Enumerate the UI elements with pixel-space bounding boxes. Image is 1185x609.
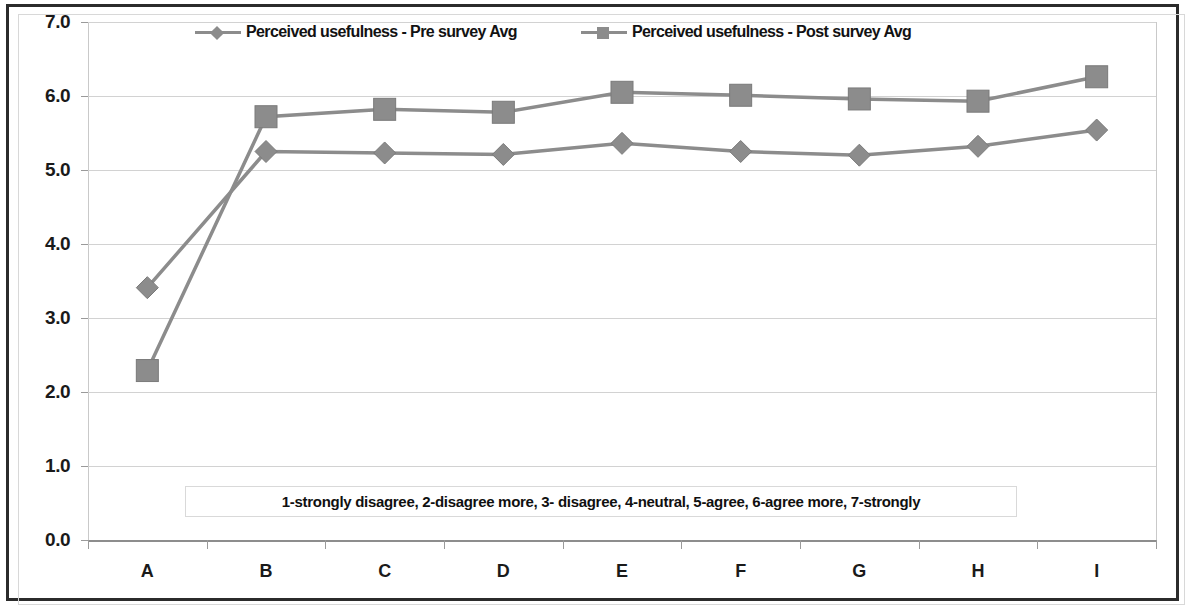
data-point-square [136,360,158,382]
x-tick-label: E [587,561,657,582]
series-layer [88,22,1156,540]
x-tick-label: D [468,561,538,582]
x-tick [1156,540,1157,549]
scale-annotation-box: 1-strongly disagree, 2-disagree more, 3-… [185,486,1017,517]
scale-annotation-text: 1-strongly disagree, 2-disagree more, 3-… [282,493,920,510]
y-tick [81,392,88,393]
x-tick [681,540,682,549]
data-point-diamond [730,141,752,163]
legend-item-pre: Perceived usefulness - Pre survey Avg [195,23,517,41]
x-tick [88,540,89,549]
legend-label: Perceived usefulness - Post survey Avg [632,23,911,41]
x-tick [563,540,564,549]
x-tick [800,540,801,549]
legend-line-sample [581,25,627,39]
y-tick-label: 1.0 [10,456,70,475]
plot-right-border [1156,22,1157,541]
data-point-square [848,88,870,110]
y-tick [81,170,88,171]
y-tick-label: 6.0 [10,86,70,105]
x-axis-line [88,540,1157,542]
data-point-diamond [611,132,633,154]
y-tick-label: 7.0 [10,12,70,31]
data-point-diamond [1086,119,1108,141]
y-tick [81,466,88,467]
legend-item-post: Perceived usefulness - Post survey Avg [581,23,911,41]
x-tick-label: B [231,561,301,582]
legend-diamond-icon [210,26,224,40]
y-tick [81,540,88,541]
y-tick [81,318,88,319]
y-tick-label: 4.0 [10,234,70,253]
data-point-square [1086,66,1108,88]
y-tick-label: 3.0 [10,308,70,327]
y-tick [81,244,88,245]
y-tick-label: 5.0 [10,160,70,179]
data-point-square [492,101,514,123]
x-tick [325,540,326,549]
legend-square-icon [597,27,609,39]
data-point-square [374,98,396,120]
y-tick-label: 0.0 [10,530,70,549]
x-tick [444,540,445,549]
x-tick-label: C [350,561,420,582]
series-line [147,77,1096,371]
data-point-square [611,81,633,103]
data-point-square [730,84,752,106]
data-point-diamond [967,135,989,157]
legend-label: Perceived usefulness - Pre survey Avg [246,23,517,41]
x-tick [207,540,208,549]
x-tick [1037,540,1038,549]
chart-legend: Perceived usefulness - Pre survey AvgPer… [195,23,911,41]
chart-page: 7.06.05.04.03.02.01.00.0 ABCDEFGHI Perce… [0,0,1185,609]
x-tick-label: G [824,561,894,582]
data-point-square [255,106,277,128]
y-tick [81,96,88,97]
data-point-diamond [492,143,514,165]
data-point-square [967,90,989,112]
plot-area [88,22,1156,540]
x-tick-label: A [112,561,182,582]
data-point-diamond [374,142,396,164]
y-tick-label: 2.0 [10,382,70,401]
x-tick-label: I [1062,561,1132,582]
y-tick [81,22,88,23]
legend-line-sample [195,25,241,39]
x-tick [919,540,920,549]
data-point-diamond [848,144,870,166]
x-tick-label: F [706,561,776,582]
x-tick-label: H [943,561,1013,582]
